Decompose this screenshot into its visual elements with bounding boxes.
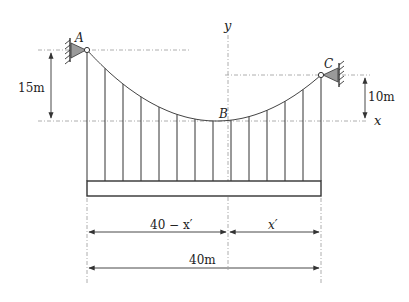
x-axis-label: x [374, 113, 382, 128]
dim-left-span-label: 40 − x′ [150, 218, 193, 232]
point-a-label: A [74, 31, 84, 45]
cable [87, 50, 321, 121]
dim-right-span-label: x′ [268, 218, 278, 232]
dim-total-span-label: 40m [189, 253, 216, 267]
suspension-cable-diagram: 15m 10m 40 − x′ x′ 40m A B C y x [0, 0, 409, 302]
y-axis-label: y [223, 18, 232, 33]
dim-15m-label: 15m [18, 81, 45, 95]
point-b-label: B [218, 107, 228, 121]
point-c-label: C [324, 57, 333, 71]
deck [87, 181, 321, 196]
dim-10m-label: 10m [368, 90, 395, 104]
